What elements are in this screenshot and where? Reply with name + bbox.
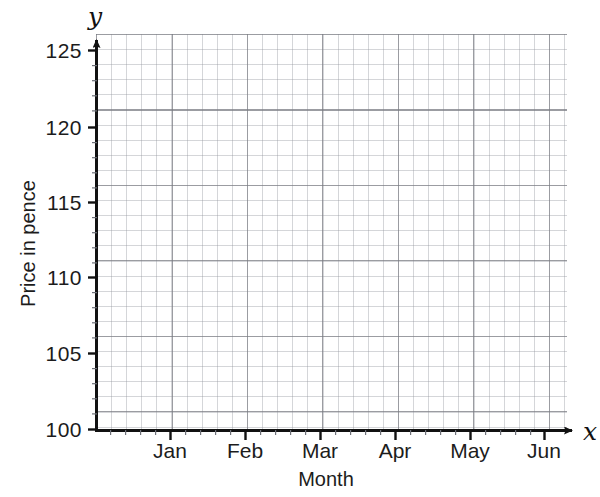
plot-grid-area[interactable]	[96, 34, 567, 430]
x-tick-label: Feb	[227, 439, 263, 462]
x-tick-label: Mar	[302, 439, 338, 462]
y-axis-symbol: y	[88, 4, 102, 29]
x-tick-label: Jan	[153, 439, 187, 462]
y-tick-label: 100	[30, 419, 82, 440]
x-axis-symbol: x	[583, 419, 597, 444]
x-axis-title: Month	[246, 468, 406, 491]
y-tick-label: 125	[30, 40, 82, 61]
x-minor-ticks	[111, 430, 531, 435]
x-tick-label: May	[450, 439, 490, 462]
graph-figure: 125 120 115 110 105 100 Jan Feb Mar Apr …	[0, 0, 600, 497]
y-axis-title: Price in pence	[17, 144, 40, 344]
x-tick-label: Jun	[527, 439, 561, 462]
x-tick-jun: Jun	[499, 440, 589, 462]
y-tick-label: 120	[30, 117, 82, 138]
x-tick-label: Apr	[379, 439, 412, 462]
y-tick-label: 105	[30, 343, 82, 364]
